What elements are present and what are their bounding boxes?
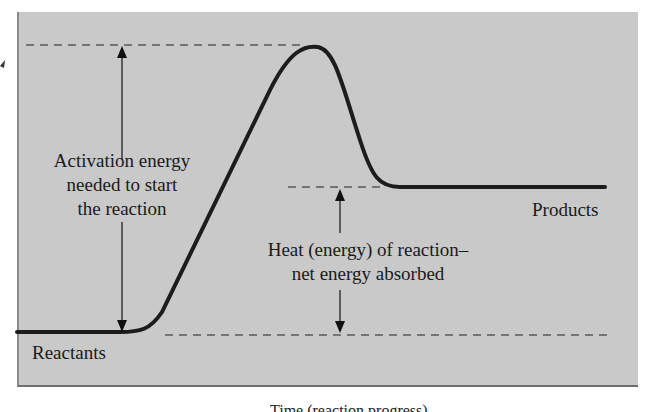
axis-arrow-icon	[0, 60, 5, 68]
activation-energy-label: Activation energy needed to start the re…	[27, 149, 217, 221]
reactants-label: Reactants	[32, 341, 106, 365]
arrowhead-down-icon	[335, 321, 345, 333]
activation-label-line1: Activation energy	[27, 149, 217, 173]
x-axis-caption-cutoff: Time (reaction progress)	[270, 400, 428, 412]
energy-diagram: Activation energy needed to start the re…	[0, 0, 665, 412]
arrowhead-up-icon	[117, 46, 127, 58]
heat-label-line1: Heat (energy) of reaction–	[248, 238, 488, 262]
arrowhead-up-icon	[335, 189, 345, 201]
activation-label-line3: the reaction	[27, 197, 217, 221]
activation-label-line2: needed to start	[27, 173, 217, 197]
products-label: Products	[532, 198, 599, 222]
heat-of-reaction-label: Heat (energy) of reaction– net energy ab…	[248, 238, 488, 286]
heat-label-line2: net energy absorbed	[248, 262, 488, 286]
